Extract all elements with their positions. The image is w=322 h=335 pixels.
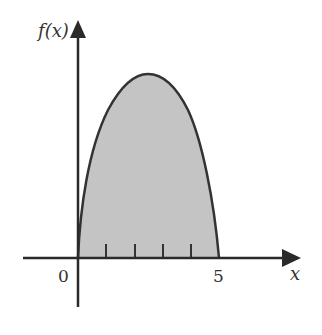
chart-canvas: f(x) x 0 5 <box>0 0 322 335</box>
origin-label: 0 <box>58 266 69 286</box>
y-axis-arrow-icon <box>70 20 86 38</box>
x-axis-label: x <box>290 263 300 284</box>
shaded-area <box>78 74 219 258</box>
y-axis-label: f(x) <box>36 20 69 41</box>
x-tick-label-5: 5 <box>213 266 224 286</box>
